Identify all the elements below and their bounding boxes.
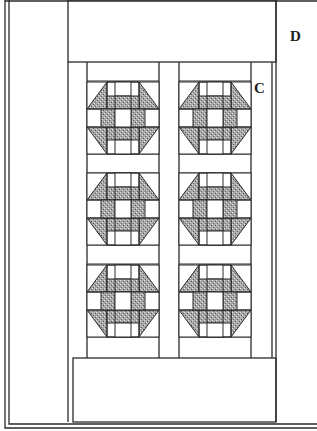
label-d: D [290,28,301,45]
quilt-block-1-1 [87,82,159,154]
quilt-block-2-1 [87,173,159,245]
quilt-block-1-2 [179,82,251,154]
label-c: C [254,80,265,97]
quilt-block-3-2 [179,265,251,337]
quilt-diagram [0,0,317,431]
quilt-block-3-1 [87,265,159,337]
quilt-block-2-2 [179,173,251,245]
